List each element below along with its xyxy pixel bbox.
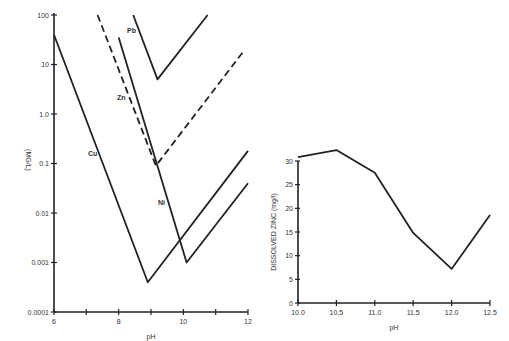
y-tick-label: 0.1 [39,160,49,167]
y-tick-label: 20 [285,205,293,212]
x-tick-label: 10 [179,318,187,325]
y-axis-label: DISSOLVED ZINC (mg/l) [270,193,278,271]
x-tick-label: 11.0 [368,309,381,316]
y-tick-label: 10 [285,252,293,259]
series-label-pb: Pb [127,27,136,34]
series-line-pb [133,15,207,79]
y-tick-label: 100 [37,12,49,19]
series-label-cu: Cu [88,150,97,157]
chart-canvas: 0.00010.0010.010.11.010100681012pH(MG/L)… [0,0,509,341]
x-tick-label: 10.0 [291,309,305,316]
metal-solubility-chart: 0.00010.0010.010.11.010100681012pH(MG/L)… [24,12,252,341]
series-line-cu [54,35,248,283]
x-tick-label: 11.5 [407,309,420,316]
series-line-dissolved-zinc [298,150,490,269]
y-tick-label: 25 [285,181,293,188]
x-tick-label: 12.5 [483,309,497,316]
dissolved-zinc-chart: 05101520253010.010.511.011.512.012.5pHDI… [270,150,497,332]
y-axis-label: (MG/L) [24,149,32,171]
y-tick-label: 0.001 [31,259,49,266]
x-axis-label: pH [390,324,399,332]
series-label-ni: Ni [158,199,165,206]
y-tick-label: 15 [285,229,293,236]
x-tick-label: 12 [244,318,252,325]
y-tick-label: 0.01 [35,210,49,217]
y-tick-label: 0.0001 [28,309,50,316]
x-tick-label: 6 [52,318,56,325]
x-axis-label: pH [147,333,156,341]
x-tick-label: 12.0 [445,309,459,316]
x-tick-label: 8 [117,318,121,325]
y-tick-label: 10 [41,61,49,68]
series-line-zn [98,15,245,166]
y-tick-label: 1.0 [39,111,49,118]
y-tick-label: 5 [289,276,293,283]
series-label-zn: Zn [117,94,126,101]
x-tick-label: 10.5 [330,309,344,316]
y-tick-label: 30 [285,158,293,165]
y-tick-label: 0 [289,300,293,307]
